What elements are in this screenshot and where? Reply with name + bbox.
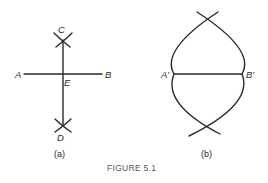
- point-label-b: B: [105, 69, 112, 80]
- point-label-d: D: [57, 132, 64, 143]
- point-label-a: A: [14, 69, 21, 80]
- point-label-c: C: [58, 24, 65, 35]
- point-label-a-prime: A': [160, 69, 170, 80]
- point-label-b-prime: B': [246, 69, 255, 80]
- figure-caption: FIGURE 5.1: [107, 163, 156, 173]
- panel-b: A' B' (b): [160, 12, 255, 159]
- sublabel-b: (b): [201, 149, 212, 159]
- point-label-e: E: [64, 77, 71, 88]
- panel-a: A B C D E (a): [14, 24, 112, 159]
- arc-mark-c-left: [54, 33, 70, 47]
- arc-mark-c-right: [56, 33, 72, 47]
- sublabel-a: (a): [54, 149, 65, 159]
- arc-left: [171, 12, 220, 134]
- figure-5-1: A B C D E (a) A' B' (b) FIGURE 5.1: [0, 0, 268, 183]
